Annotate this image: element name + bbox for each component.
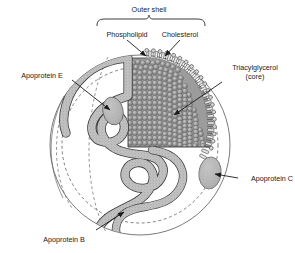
diagram-canvas: Outer shell Phospholipid Cholesterol Tri… xyxy=(0,0,295,253)
leader-phospholipid xyxy=(127,40,146,56)
label-apoprotein-c: Apoprotein C xyxy=(251,174,293,183)
label-apoprotein-e: Apoprotein E xyxy=(21,71,63,80)
triacylglycerol-core xyxy=(127,58,212,150)
lipoprotein-diagram: Outer shell Phospholipid Cholesterol Tri… xyxy=(0,0,295,253)
label-triacylglycerol-line1: Triacylglycerol xyxy=(232,63,278,72)
outer-shell-bracket xyxy=(97,15,205,26)
label-phospholipid: Phospholipid xyxy=(106,30,147,39)
label-apoprotein-b: Apoprotein B xyxy=(43,235,85,244)
label-cholesterol: Cholesterol xyxy=(162,30,199,39)
bracket-label-outer-shell: Outer shell xyxy=(132,5,167,14)
label-triacylglycerol-line2: (core) xyxy=(246,72,265,81)
